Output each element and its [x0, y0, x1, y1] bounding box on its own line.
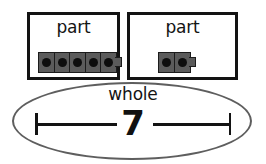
part-part-whole-diagram: part part whole 7 [0, 0, 266, 164]
cube-hole-icon [162, 58, 171, 67]
cube-hole-icon [104, 58, 113, 67]
cube-hole-icon [178, 58, 187, 67]
part-label-right: part [130, 17, 235, 37]
part-box-left: part [27, 12, 120, 80]
part-box-right: part [127, 12, 238, 80]
unifix-cube [85, 52, 102, 73]
cube-train-left [38, 51, 122, 73]
cube-hole-icon [42, 58, 51, 67]
unifix-cube [54, 52, 71, 73]
part-label-left: part [30, 17, 117, 37]
cube-train-right [158, 51, 196, 73]
cube-hole-icon [58, 58, 67, 67]
cube-hole-icon [89, 58, 98, 67]
cube-hole-icon [73, 58, 82, 67]
unifix-cube [158, 52, 175, 73]
whole-measure-bar: 7 [35, 112, 231, 136]
unifix-cube [38, 52, 55, 73]
whole-value: 7 [35, 104, 231, 142]
cube-connector-nub-icon [115, 57, 122, 67]
cube-connector-nub-icon [189, 57, 196, 67]
unifix-cube [69, 52, 86, 73]
whole-label: whole [0, 84, 266, 104]
